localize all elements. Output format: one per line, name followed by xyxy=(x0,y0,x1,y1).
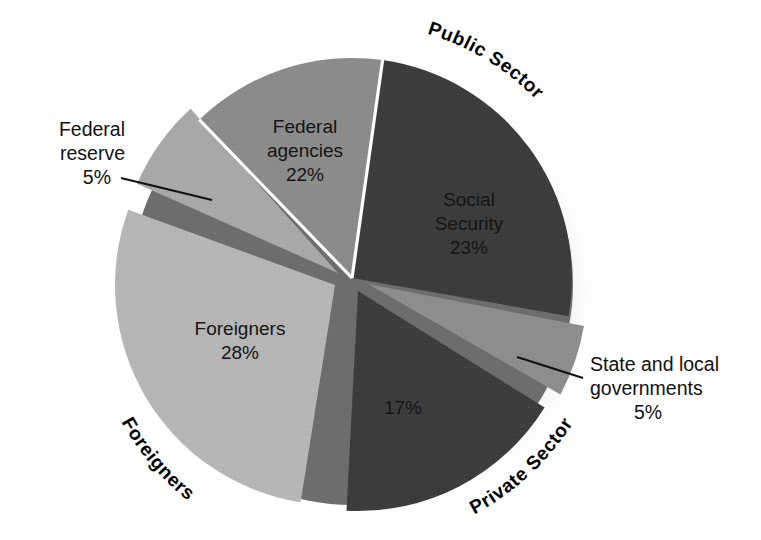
federal-agencies-line1: Federal xyxy=(273,116,337,137)
state-local-line1: State and local xyxy=(590,353,719,375)
social-security-line1: Social xyxy=(443,189,495,210)
foreigners-line1: Foreigners xyxy=(195,318,286,339)
social-security-line2: Security xyxy=(435,213,504,234)
federal-reserve-line2: reserve xyxy=(60,142,125,164)
label-private-other: 17% xyxy=(384,397,422,418)
federal-agencies-pct: 22% xyxy=(286,164,324,185)
private-other-pct: 17% xyxy=(384,397,422,418)
state-local-line2: governments xyxy=(590,377,703,399)
federal-reserve-pct: 5% xyxy=(83,166,111,188)
state-local-pct: 5% xyxy=(634,401,662,423)
foreigners-pct: 28% xyxy=(221,342,259,363)
pie-chart-svg: Federal agencies 22% Social Security 23%… xyxy=(0,0,761,540)
pie-chart-figure: Federal agencies 22% Social Security 23%… xyxy=(0,0,761,540)
social-security-pct: 23% xyxy=(450,237,488,258)
federal-reserve-line1: Federal xyxy=(59,118,125,140)
federal-agencies-line2: agencies xyxy=(267,140,343,161)
